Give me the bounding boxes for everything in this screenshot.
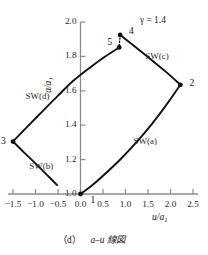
y-tick-label: 1.0 xyxy=(49,189,77,198)
point-label-3: 3 xyxy=(1,136,6,146)
curve-label-SWa: SW(a) xyxy=(134,137,158,146)
y-tick-label: 1.6 xyxy=(49,86,77,95)
x-tick-label: 2.0 xyxy=(160,200,182,209)
figure-container: a/a1 u/a1 γ = 1.4 （d） a–u 線図 −1.5−1.0−0.… xyxy=(0,0,208,255)
caption-body: a–u 線図 xyxy=(90,235,124,245)
x-axis-title-sub: 1 xyxy=(164,216,167,223)
plot-canvas xyxy=(0,0,208,255)
data-point-5 xyxy=(117,45,122,50)
y-tick-label: 1.4 xyxy=(49,120,77,129)
x-tick-label: −1.0 xyxy=(25,200,47,209)
data-point-2 xyxy=(178,82,183,87)
x-tick-label: 1.0 xyxy=(115,200,137,209)
data-point-3 xyxy=(11,139,16,144)
y-axis-title-sub: 1 xyxy=(47,77,54,80)
data-point-1 xyxy=(78,192,83,197)
figure-caption: （d） a–u 線図 xyxy=(58,236,125,245)
x-axis-title-main: u/a xyxy=(152,211,164,222)
curve-SWa xyxy=(81,85,181,194)
caption-index: （d） xyxy=(58,235,81,245)
y-tick-label: 1.8 xyxy=(49,51,77,60)
x-tick-label: 0.0 xyxy=(70,200,92,209)
x-tick-label: −1.5 xyxy=(2,200,24,209)
point-label-5: 5 xyxy=(107,37,112,47)
curve-label-SWc: SW(c) xyxy=(145,52,169,61)
gamma-annotation: γ = 1.4 xyxy=(140,16,166,25)
curve-label-SWd: SW(d) xyxy=(26,92,50,101)
x-tick-label: 0.5 xyxy=(92,200,114,209)
x-tick-label: 2.5 xyxy=(182,200,204,209)
x-axis-title: u/a1 xyxy=(152,212,168,223)
y-tick-label: 2.0 xyxy=(49,17,77,26)
x-tick-label: −0.5 xyxy=(47,200,69,209)
point-label-4: 4 xyxy=(129,26,134,36)
curve-label-SWb: SW(b) xyxy=(29,162,53,171)
data-point-4 xyxy=(118,33,123,38)
x-tick-label: 1.5 xyxy=(137,200,159,209)
point-label-2: 2 xyxy=(189,78,194,88)
point-label-1: 1 xyxy=(91,195,96,205)
